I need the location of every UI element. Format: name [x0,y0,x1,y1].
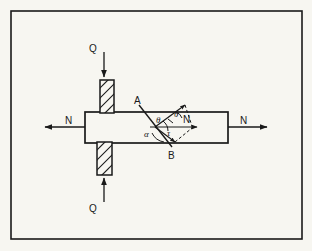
label-angle-theta-2: θ [174,109,179,119]
label-point-a: A [134,95,141,106]
figure-canvas: Q Q N N A B θ θ α N τ [0,0,312,251]
label-angle-theta: θ [156,115,161,125]
label-point-b: B [168,150,175,161]
label-n-left: N [65,115,72,126]
label-angle-alpha: α [144,129,149,139]
label-q-bottom: Q [89,203,97,214]
label-q-top: Q [89,43,97,54]
label-n-right: N [240,115,247,126]
mechanics-figure: Q Q N N A B θ θ α N τ [0,0,312,251]
label-stress-normal: N [183,114,190,125]
